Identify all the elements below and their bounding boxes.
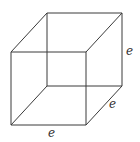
height-label: e bbox=[126, 44, 133, 58]
cube-diagram: e e e bbox=[0, 0, 140, 142]
top-left-depth-edge bbox=[11, 13, 47, 52]
depth-label: e bbox=[109, 97, 116, 111]
bottom-right-depth-edge bbox=[86, 86, 122, 125]
top-right-depth-edge bbox=[86, 13, 122, 52]
bottom-left-depth-edge bbox=[11, 86, 47, 125]
width-label: e bbox=[48, 126, 55, 140]
